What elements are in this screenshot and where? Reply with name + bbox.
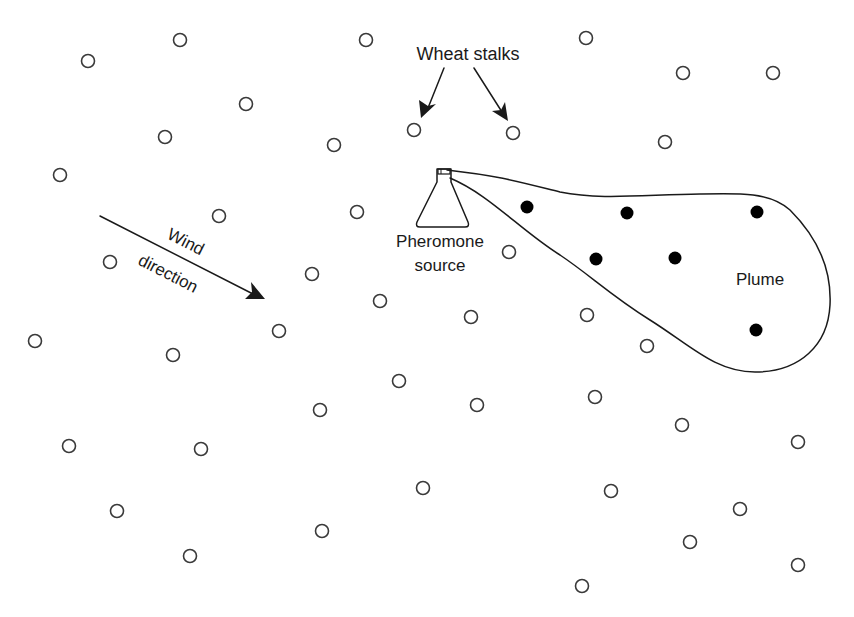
diagram-canvas: Pheromone source Wheat stalks Wind direc… (0, 0, 854, 617)
wind-label-line1: Wind (164, 225, 207, 260)
wheat-stalk-icon (676, 419, 689, 432)
wheat-stalk-icon (576, 580, 589, 593)
wheat-stalk-icon (677, 67, 690, 80)
wheat-stalk-icon (792, 559, 805, 572)
wheat-stalk-icon (734, 503, 747, 516)
plume-label: Plume (736, 270, 784, 289)
wheat-stalk-icon (580, 32, 593, 45)
insects-in-plume (521, 201, 764, 337)
wheat-stalk-icon (63, 440, 76, 453)
pheromone-source-label-line1: Pheromone (396, 232, 484, 251)
insect-in-plume-icon (590, 253, 603, 266)
wheat-stalk-icon (471, 399, 484, 412)
wheat-stalk-icon (684, 536, 697, 549)
wheat-stalk-icon (306, 268, 319, 281)
wheat-stalk-arrow-right-icon (474, 68, 508, 121)
wind-label-line2: direction (135, 251, 201, 297)
wheat-stalk-icon (641, 340, 654, 353)
wheat-stalk-icon (589, 391, 602, 404)
wheat-stalk-icon (104, 256, 117, 269)
wheat-stalk-arrow-left-icon (419, 68, 444, 118)
wheat-stalk-icon (54, 169, 67, 182)
insect-in-plume-icon (669, 252, 682, 265)
wheat-stalk-icon (767, 67, 780, 80)
wheat-stalk-icon (792, 436, 805, 449)
pheromone-source-label-line2: source (414, 256, 465, 275)
wheat-stalk-icon (167, 349, 180, 362)
pheromone-source-flask-icon (416, 169, 468, 227)
wheat-stalk-icon (408, 124, 421, 137)
wheat-stalk-icon (111, 505, 124, 518)
insect-in-plume-icon (621, 207, 634, 220)
wheat-stalk-icon (374, 295, 387, 308)
wheat-stalks-label: Wheat stalks (416, 44, 519, 64)
wheat-stalk-icon (174, 34, 187, 47)
wheat-stalk-icon (82, 55, 95, 68)
insect-in-plume-icon (521, 201, 534, 214)
wheat-stalk-icon (465, 311, 478, 324)
wheat-stalk-icon (507, 127, 520, 140)
wheat-stalk-icon (503, 246, 516, 259)
wheat-stalk-icon (159, 131, 172, 144)
wheat-stalk-icon (328, 139, 341, 152)
wheat-stalk-icon (393, 375, 406, 388)
wheat-stalk-icon (314, 404, 327, 417)
wheat-stalk-field (29, 32, 805, 593)
wheat-stalk-icon (605, 485, 618, 498)
wheat-stalk-icon (417, 482, 430, 495)
wheat-stalk-icon (351, 206, 364, 219)
wheat-stalk-icon (195, 443, 208, 456)
wheat-stalk-icon (360, 34, 373, 47)
pheromone-plume-diagram: Pheromone source Wheat stalks Wind direc… (0, 0, 854, 617)
wheat-stalk-icon (184, 550, 197, 563)
wheat-stalk-icon (316, 525, 329, 538)
wheat-stalk-icon (213, 210, 226, 223)
wheat-stalk-icon (659, 136, 672, 149)
insect-in-plume-icon (751, 206, 764, 219)
insect-in-plume-icon (750, 324, 763, 337)
wheat-stalk-icon (29, 335, 42, 348)
wheat-stalk-icon (581, 309, 594, 322)
wheat-stalk-icon (240, 98, 253, 111)
wheat-stalk-icon (273, 325, 286, 338)
